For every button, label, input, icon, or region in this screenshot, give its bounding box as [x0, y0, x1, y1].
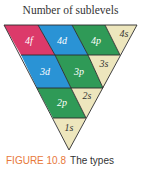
label-3d: 3d — [39, 66, 51, 77]
label-4p: 4p — [91, 35, 101, 46]
label-4f: 4f — [25, 35, 34, 46]
caption-text: The types — [70, 155, 114, 166]
sublevel-triangle-diagram: 4f 4d 4p 4s 3d 3p 3s 2p 2s 1s — [0, 0, 141, 172]
label-4s: 4s — [120, 28, 129, 39]
label-4d: 4d — [57, 35, 68, 46]
label-1s: 1s — [65, 122, 74, 133]
figure-caption: FIGURE 10.8The types — [6, 155, 114, 166]
label-3s: 3s — [99, 58, 109, 69]
label-2s: 2s — [83, 90, 92, 101]
label-3p: 3p — [73, 66, 84, 77]
figure-number: FIGURE 10.8 — [6, 155, 66, 166]
label-2p: 2p — [57, 97, 67, 108]
